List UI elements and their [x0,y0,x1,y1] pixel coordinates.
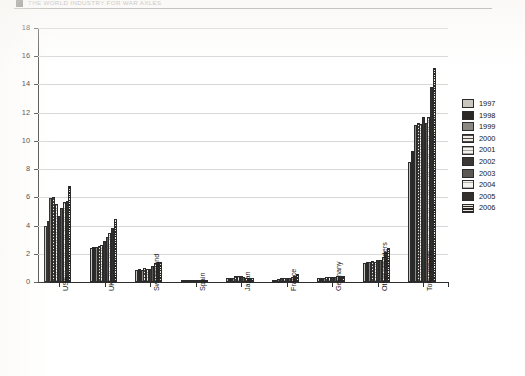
bar-group [272,28,299,282]
x-tick-mark [150,282,151,287]
x-tick-mark [378,282,379,287]
legend-item[interactable]: 1997 [462,98,520,110]
x-category-label: Other reporters [381,242,388,291]
legend-item[interactable]: 2002 [462,156,520,168]
legend-item[interactable]: 1999 [462,121,520,133]
legend-item[interactable]: 2004 [462,179,520,191]
legend-label: 1998 [479,112,495,119]
y-tick-label: 2 [8,250,30,257]
legend-swatch [462,122,474,131]
legend-item[interactable]: 2001 [462,144,520,156]
bar-chart: 024681012141618 USAUKSwitzerlandSpainJap… [0,11,525,376]
page-header: THE WORLD INDUSTRY FOR WAR AXLES [0,0,525,11]
header-rule [14,8,492,9]
y-tick-label: 14 [8,81,30,88]
legend-label: 1999 [479,123,495,130]
legend-item[interactable]: 2000 [462,133,520,145]
y-tick-label: 6 [8,194,30,201]
y-tick-label: 12 [8,109,30,116]
legend-item[interactable]: 2005 [462,191,520,203]
x-category-label: Total imports [426,250,433,291]
legend-label: 2003 [479,170,495,177]
x-tick-mark [196,282,197,287]
x-category-label: Germany [335,261,342,291]
square-bullet-icon [16,0,23,7]
legend-label: 2000 [479,135,495,142]
chart-legend: 1997199819992000200120022003200420052006 [462,98,520,214]
legend-swatch [462,146,474,155]
y-tick-label: 4 [8,222,30,229]
y-tick-label: 10 [8,137,30,144]
bar-group [181,28,208,282]
legend-item[interactable]: 1998 [462,110,520,122]
legend-label: 2004 [479,181,495,188]
legend-swatch [462,180,474,189]
bar-group [135,28,162,282]
legend-label: 2002 [479,158,495,165]
x-category-label: UK [108,281,115,291]
legend-label: 1997 [479,100,495,107]
legend-label: 2005 [479,193,495,200]
legend-item[interactable]: 2003 [462,168,520,180]
x-category-label: Japan [244,271,251,291]
x-tick-mark [448,282,449,287]
legend-swatch [462,111,474,120]
bar-group [44,28,71,282]
y-tick-label: 8 [8,165,30,172]
bar-group [226,28,253,282]
bar-group [317,28,344,282]
y-tick-label: 0 [8,278,30,285]
bar-group [90,28,117,282]
legend-swatch [462,192,474,201]
x-category-label: Spain [199,273,206,291]
y-tick-label: 16 [8,53,30,60]
x-tick-mark [287,282,288,287]
bar [68,186,71,282]
page-header-text: THE WORLD INDUSTRY FOR WAR AXLES [28,0,161,6]
legend-swatch [462,99,474,108]
x-category-label: France [290,269,297,291]
legend-swatch [462,134,474,143]
legend-label: 2006 [479,204,495,211]
legend-swatch [462,204,474,213]
x-tick-mark [105,282,106,287]
bar-group [408,28,435,282]
legend-label: 2001 [479,146,495,153]
x-category-label: USA [62,276,69,291]
bar [114,219,117,283]
y-tick-label: 18 [8,24,30,31]
x-category-label: Switzerland [153,254,160,291]
legend-item[interactable]: 2006 [462,202,520,214]
legend-swatch [462,169,474,178]
x-tick-mark [59,282,60,287]
legend-swatch [462,157,474,166]
